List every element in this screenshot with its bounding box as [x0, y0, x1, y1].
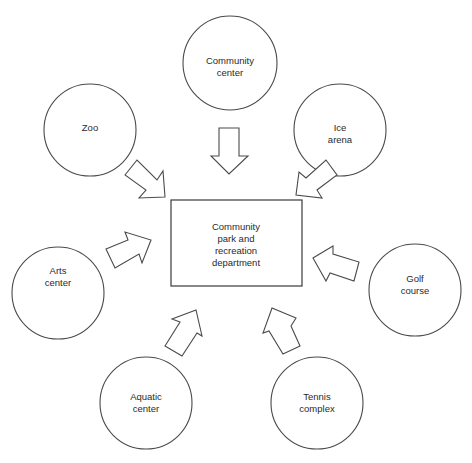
center-label: park and [218, 233, 255, 244]
node-circle [12, 247, 104, 339]
arrow-down-icon [211, 128, 248, 174]
node-label: Community [206, 55, 254, 66]
node-label: Golf [406, 273, 424, 284]
node-label: Tennis [303, 391, 331, 402]
node-label: course [401, 285, 430, 296]
node-ice-arena: Ice arena [294, 84, 386, 176]
node-arts-center: Arts center [12, 247, 104, 339]
node-label: Ice [334, 122, 347, 133]
arrow-right-icon [106, 232, 151, 268]
arrow-up-left-icon [263, 308, 300, 354]
node-label: Zoo [82, 122, 98, 133]
node-label: arena [328, 134, 353, 145]
arrow-down-right-icon [125, 160, 165, 198]
arrow-up-right-icon [165, 310, 202, 356]
center-label: Community [212, 221, 260, 232]
node-zoo: Zoo [44, 84, 136, 176]
node-label: center [133, 403, 159, 414]
node-label: complex [299, 403, 335, 414]
center-label: department [212, 257, 260, 268]
node-label: Aquatic [130, 391, 162, 402]
node-label: center [217, 67, 243, 78]
center-label: recreation [215, 245, 257, 256]
node-aquatic-center: Aquatic center [100, 357, 192, 449]
arrow-left-icon [313, 246, 359, 281]
center-department-box: Community park and recreation department [171, 200, 302, 286]
node-golf-course: Golf course [369, 244, 461, 336]
node-tennis-complex: Tennis complex [271, 357, 363, 449]
node-community-center: Community center [183, 16, 277, 110]
node-label: center [45, 277, 71, 288]
diagram-canvas: Community center Zoo Ice arena Community… [0, 0, 472, 463]
node-label: Arts [50, 265, 67, 276]
